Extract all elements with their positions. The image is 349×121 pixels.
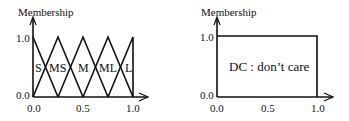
x-tick-0: 0.0: [210, 103, 224, 114]
x-tick-1: 1.0: [311, 103, 325, 114]
x-tick-1: 1.0: [126, 103, 140, 114]
membership-functions-chart: Membership 1.0 0.0 0.0 0.5 1.0 S MS M ML…: [0, 0, 175, 121]
set-label-ml: ML: [99, 62, 117, 74]
y-tick-0: 0.0: [16, 90, 30, 101]
x-tick-0: 0.0: [27, 103, 41, 114]
y-tick-1: 1.0: [200, 32, 214, 43]
x-tick-05: 0.5: [261, 103, 275, 114]
set-label-m: M: [78, 62, 89, 74]
dont-care-chart: Membership 1.0 0.0 0.0 0.5 1.0 DC : don’…: [175, 0, 349, 121]
y-axis-label: Membership: [201, 7, 257, 18]
y-axis-label: Membership: [18, 7, 74, 18]
set-label-s: S: [35, 62, 42, 74]
set-label-ms: MS: [49, 62, 66, 74]
y-tick-0: 0.0: [200, 90, 214, 101]
dont-care-annotation: DC : don’t care: [229, 60, 309, 73]
y-tick-1: 1.0: [16, 33, 30, 44]
x-tick-05: 0.5: [76, 103, 90, 114]
set-label-l: L: [125, 62, 132, 74]
